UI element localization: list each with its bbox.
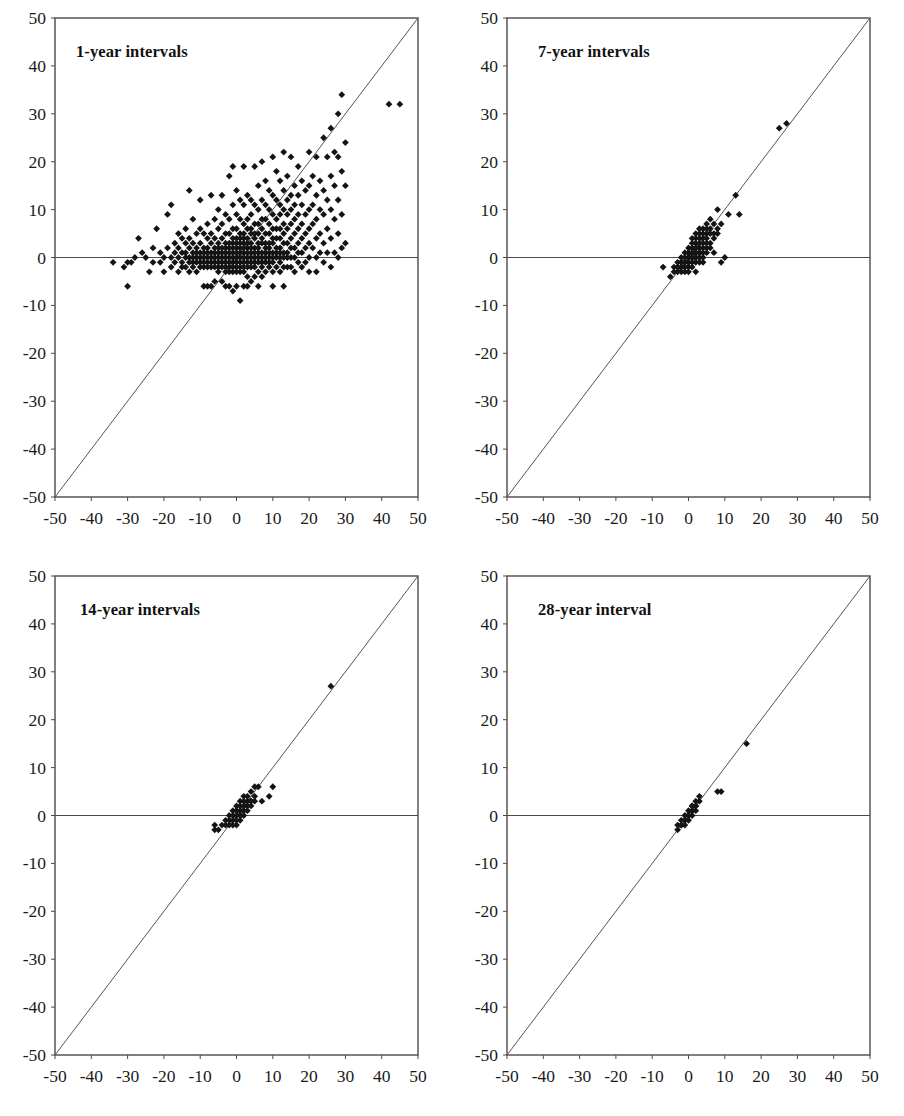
data-point — [331, 249, 338, 256]
data-point — [689, 264, 696, 271]
data-point — [259, 798, 266, 805]
x-tick-label: -40 — [532, 508, 556, 528]
data-point — [313, 192, 320, 199]
data-point — [313, 268, 320, 275]
data-point — [182, 264, 189, 271]
data-point — [157, 259, 164, 266]
data-point — [255, 283, 262, 290]
data-point — [269, 783, 276, 790]
x-tick-label: 30 — [337, 1066, 355, 1086]
data-point — [186, 245, 193, 252]
x-tick-label: 50 — [409, 508, 427, 528]
data-point — [273, 216, 280, 223]
data-point — [110, 259, 117, 266]
data-point — [338, 168, 345, 175]
y-tick-label: -30 — [23, 949, 47, 969]
data-point — [182, 240, 189, 247]
data-point — [255, 268, 262, 275]
data-point — [251, 798, 258, 805]
data-point — [284, 173, 291, 180]
y-tick-label: 50 — [481, 566, 499, 586]
y-tick-label: -20 — [23, 343, 47, 363]
data-point — [222, 211, 229, 218]
data-point — [153, 225, 160, 232]
data-point — [208, 230, 215, 237]
data-point — [317, 177, 324, 184]
x-tick-label: -40 — [80, 508, 104, 528]
x-tick-label: 40 — [825, 508, 843, 528]
data-point — [248, 278, 255, 285]
data-point — [714, 206, 721, 213]
data-point — [711, 235, 718, 242]
data-point — [736, 211, 743, 218]
data-point — [298, 264, 305, 271]
data-point — [306, 206, 313, 213]
data-point — [266, 264, 273, 271]
data-point — [190, 240, 197, 247]
y-tick-label: -10 — [23, 295, 47, 315]
data-point — [313, 216, 320, 223]
x-tick-label: 30 — [337, 508, 355, 528]
y-tick-label: -40 — [23, 997, 47, 1017]
x-tick-label: -10 — [641, 508, 665, 528]
data-point — [161, 268, 168, 275]
x-tick-label: -20 — [152, 1066, 176, 1086]
data-point — [157, 249, 164, 256]
data-point — [237, 297, 244, 304]
y-tick-label: -10 — [475, 295, 499, 315]
data-point — [193, 230, 200, 237]
data-point — [295, 225, 302, 232]
data-point — [331, 182, 338, 189]
x-tick-label: 30 — [789, 1066, 807, 1086]
data-point — [197, 240, 204, 247]
data-point — [128, 259, 135, 266]
data-point — [298, 177, 305, 184]
data-point — [266, 187, 273, 194]
data-point — [331, 149, 338, 156]
panel-title-28-year: 28-year interval — [538, 600, 652, 620]
data-point — [291, 230, 298, 237]
data-point — [237, 197, 244, 204]
y-tick-label: -20 — [23, 901, 47, 921]
data-point — [331, 216, 338, 223]
x-tick-label: -20 — [152, 508, 176, 528]
x-tick-label: -30 — [116, 508, 140, 528]
data-point — [306, 149, 313, 156]
data-points — [660, 120, 790, 280]
y-tick-label: 0 — [37, 248, 46, 268]
y-tick-label: 40 — [481, 56, 499, 76]
data-point — [700, 259, 707, 266]
data-point — [200, 230, 207, 237]
data-point — [317, 249, 324, 256]
scatter-plot-1-year: 50403020100-10-20-30-40-50-50-40-30-20-1… — [0, 0, 452, 558]
data-point — [288, 192, 295, 199]
data-point — [190, 216, 197, 223]
y-tick-label: 20 — [29, 710, 47, 730]
data-point — [317, 230, 324, 237]
y-tick-label: -20 — [475, 901, 499, 921]
data-point — [273, 264, 280, 271]
data-point — [269, 192, 276, 199]
data-point — [277, 235, 284, 242]
data-point — [259, 273, 266, 280]
x-tick-label: -40 — [80, 1066, 104, 1086]
x-tick-label: -30 — [116, 1066, 140, 1086]
y-tick-label: 40 — [29, 614, 47, 634]
x-tick-label: 0 — [232, 1066, 241, 1086]
x-tick-label: 20 — [752, 1066, 770, 1086]
data-point — [248, 211, 255, 218]
data-point — [277, 177, 284, 184]
data-point — [186, 187, 193, 194]
data-point — [295, 240, 302, 247]
data-point — [240, 201, 247, 208]
data-point — [291, 268, 298, 275]
data-point — [273, 168, 280, 175]
data-point — [168, 201, 175, 208]
data-point — [335, 230, 342, 237]
data-point — [324, 225, 331, 232]
data-point — [306, 254, 313, 261]
x-tick-label: -20 — [604, 1066, 628, 1086]
data-point — [298, 249, 305, 256]
data-point — [182, 225, 189, 232]
data-point — [248, 197, 255, 204]
